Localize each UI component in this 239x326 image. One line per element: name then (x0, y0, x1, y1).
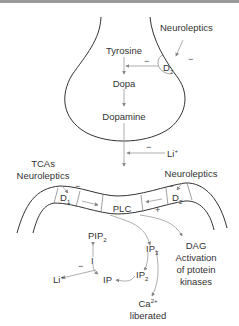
tcas-label: TCAs (31, 158, 55, 169)
inhibit-sign-d2: − (188, 55, 193, 64)
ip-label: IP (103, 274, 112, 285)
kinases-label: kinases (180, 276, 212, 287)
ip3-label: IP3 (146, 243, 158, 254)
lithium-cycle-label: Li+ (53, 274, 64, 285)
dopamine-label: Dopamine (102, 111, 145, 122)
liberated-label: liberated (130, 310, 166, 321)
calcium-label: Ca2+ (139, 298, 158, 309)
activation-label: Activation (175, 252, 216, 263)
tyrosine-label: Tyrosine (106, 45, 142, 56)
d1-receptor-label: D1 (60, 192, 70, 203)
inositol-label: I (91, 255, 94, 266)
pip2-label: PIP2 (88, 230, 107, 241)
d1-inhibit-sign: − (75, 182, 80, 191)
dopa-label: Dopa (113, 78, 136, 89)
presynaptic-d2-label: D2 (163, 62, 173, 73)
right-neuroleptics-label: Neuroleptics (165, 168, 218, 179)
d2-post-receptor-label: D2 (172, 192, 182, 203)
plc-plus-sign: + (155, 206, 160, 215)
dag-label: DAG (186, 240, 207, 251)
left-neuroleptics-label: Neuroleptics (17, 170, 70, 181)
protein-label: of ptotein (176, 264, 215, 275)
ip2-label: IP2 (136, 269, 148, 280)
inhibit-sign-feedback: − (144, 57, 149, 66)
lithium-release-inhibit-sign: − (146, 143, 151, 152)
presynaptic-neuroleptics-label: Neuroleptics (160, 22, 213, 33)
lithium-cycle-inhibit-sign: − (78, 262, 83, 271)
plc-label: PLC (113, 203, 131, 214)
lithium-cleft-label: Li+ (167, 148, 178, 159)
d2-post-inhibit-sign: − (168, 182, 173, 191)
